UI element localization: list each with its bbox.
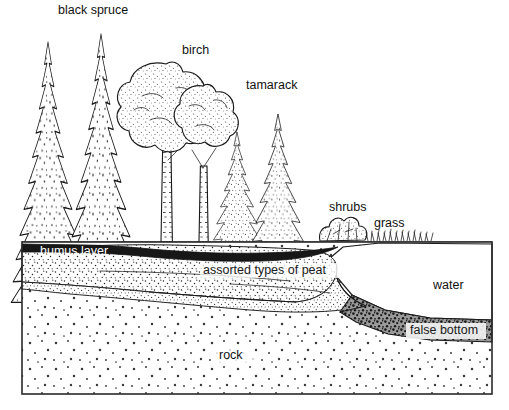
- label-black-spruce: black spruce: [58, 3, 128, 17]
- label-grass: grass: [374, 216, 405, 230]
- label-tamarack: tamarack: [246, 78, 298, 92]
- label-shrubs: shrubs: [329, 200, 367, 214]
- bog-cross-section-diagram: black spruce birch tamarack shrubs grass…: [0, 0, 509, 410]
- label-birch: birch: [182, 43, 209, 57]
- label-assorted-types-of-peat: assorted types of peat: [203, 263, 327, 277]
- birch-trunk: [161, 150, 172, 242]
- label-water: water: [432, 278, 464, 292]
- label-false-bottom: false bottom: [410, 323, 478, 337]
- birch-trunk: [199, 166, 208, 242]
- label-humus-layer: humus layer: [40, 244, 108, 258]
- diagram-canvas: black spruce birch tamarack shrubs grass…: [0, 0, 509, 410]
- label-rock: rock: [219, 348, 243, 362]
